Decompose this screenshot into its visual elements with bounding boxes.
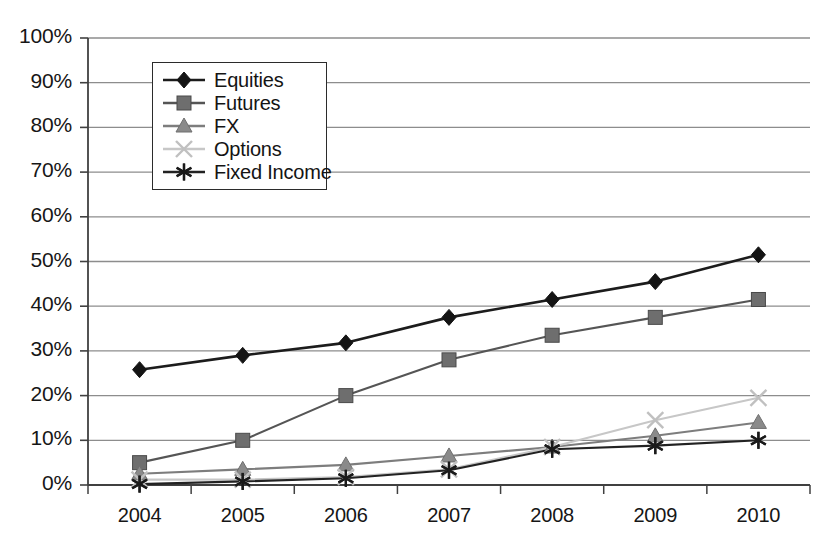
y-tick-label: 10% [0,426,72,450]
series-markers [132,247,767,493]
chart-legend: EquitiesFuturesFXOptionsFixed Income [152,62,327,190]
legend-item-fx: FX [161,114,316,137]
y-tick-label: 20% [0,382,72,406]
line-chart: 100%90%80%70%60%50%40%30%20%10%0% 200420… [0,0,835,551]
data-point-futures-2008 [545,328,559,342]
legend-item-options: Options [161,137,316,160]
y-tick-label: 100% [0,24,72,48]
legend-marker-diamond-icon [161,69,207,91]
x-axis-ticks [88,485,810,494]
x-tick-label: 2006 [294,504,397,527]
legend-marker-glyph [177,96,191,110]
legend-marker-square-icon [161,92,207,114]
data-point-futures-2010 [751,292,765,306]
x-tick-label: 2009 [604,504,707,527]
data-point-equities-2005 [236,347,250,363]
data-point-equities-2010 [751,247,765,263]
legend-marker-triangle-icon [161,115,207,137]
data-point-futures-2005 [236,433,250,447]
legend-marker-cross-x-icon [161,138,207,160]
data-point-options-2010 [750,390,766,406]
data-point-equities-2009 [648,274,662,290]
legend-item-equities: Equities [161,68,316,91]
y-tick-label: 80% [0,113,72,137]
legend-label: Equities [214,69,284,91]
data-point-options-2009 [647,412,663,428]
x-tick-label: 2010 [707,504,810,527]
x-tick-label: 2007 [397,504,500,527]
data-point-futures-2007 [442,353,456,367]
legend-marker-glyph [177,72,191,88]
legend-label: Options [214,138,282,160]
data-point-futures-2006 [339,389,353,403]
chart-plot-area [0,0,835,551]
data-point-equities-2008 [545,291,559,307]
x-tick-label: 2004 [88,504,191,527]
legend-label: Fixed Income [214,161,332,183]
x-tick-label: 2008 [501,504,604,527]
legend-item-futures: Futures [161,91,316,114]
y-tick-label: 90% [0,69,72,93]
y-tick-label: 50% [0,248,72,272]
legend-label: FX [214,115,239,137]
y-tick-label: 30% [0,337,72,361]
legend-marker-asterisk-icon [161,161,207,183]
data-point-fx-2010 [750,414,766,428]
x-tick-label: 2005 [191,504,294,527]
data-point-equities-2007 [442,309,456,325]
legend-label: Futures [214,92,280,114]
data-point-equities-2006 [339,335,353,351]
y-tick-label: 70% [0,158,72,182]
data-point-equities-2004 [133,362,147,378]
y-tick-label: 60% [0,203,72,227]
y-tick-label: 0% [0,471,72,495]
y-tick-label: 40% [0,292,72,316]
legend-item-fixed-income: Fixed Income [161,160,316,183]
data-point-futures-2009 [648,310,662,324]
